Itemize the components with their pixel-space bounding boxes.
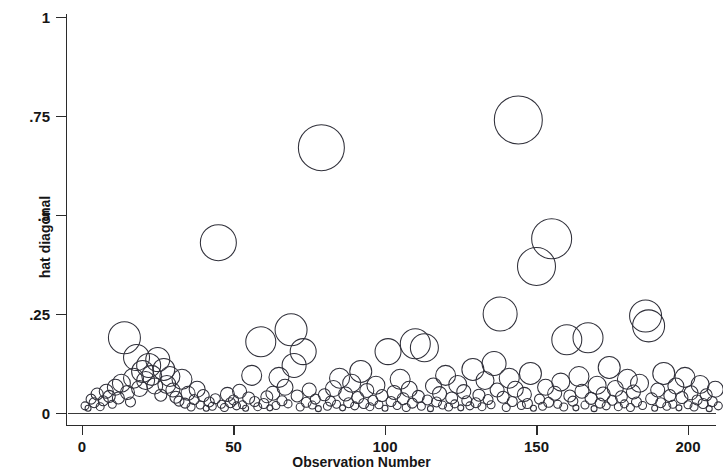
data-point-marker	[633, 310, 665, 342]
axis-ticks-group	[56, 18, 689, 436]
scatter-plot-canvas	[0, 0, 723, 473]
x-tick-label: 100	[372, 438, 397, 455]
data-point-marker	[200, 225, 236, 261]
data-point-marker	[462, 358, 484, 380]
x-tick-label: 0	[78, 438, 86, 455]
data-point-marker	[269, 367, 289, 387]
data-point-marker	[651, 383, 665, 397]
data-point-marker	[607, 380, 623, 396]
data-point-marker	[518, 247, 556, 285]
data-point-marker	[707, 397, 717, 407]
data-point-marker	[142, 365, 162, 385]
data-point-marker	[425, 378, 441, 394]
data-point-marker	[517, 401, 525, 409]
data-point-marker	[519, 362, 541, 384]
data-point-marker	[242, 365, 262, 385]
data-point-marker	[422, 395, 432, 405]
data-point-marker	[707, 381, 723, 397]
data-point-marker	[390, 369, 410, 389]
data-point-marker	[483, 395, 493, 405]
data-point-marker	[382, 405, 388, 411]
data-point-marker	[675, 367, 695, 387]
data-point-marker	[602, 402, 610, 410]
data-point-marker	[691, 375, 709, 393]
data-point-marker	[166, 383, 180, 397]
x-tick-label: 200	[675, 438, 700, 455]
data-point-marker	[233, 384, 247, 398]
data-point-marker	[676, 405, 682, 411]
data-point-marker	[290, 339, 316, 365]
data-point-marker	[210, 394, 220, 404]
data-point-marker	[569, 367, 589, 387]
data-point-marker	[462, 396, 472, 406]
data-point-marker	[573, 323, 603, 353]
data-point-marker	[386, 397, 396, 407]
data-point-marker	[483, 297, 517, 331]
data-point-marker	[400, 329, 430, 359]
bubble-markers-group	[81, 96, 723, 412]
data-point-marker	[494, 96, 542, 144]
data-point-marker	[275, 314, 307, 346]
data-point-marker	[630, 300, 662, 332]
data-point-marker	[626, 403, 634, 411]
data-point-marker	[427, 406, 433, 412]
data-point-marker	[532, 219, 572, 259]
data-point-marker	[282, 353, 306, 377]
data-point-marker	[375, 339, 401, 365]
data-point-marker	[302, 383, 316, 397]
data-point-marker	[407, 398, 417, 408]
data-point-marker	[507, 397, 517, 407]
x-tick-label: 50	[225, 438, 242, 455]
data-point-marker	[330, 368, 350, 388]
data-point-marker	[482, 352, 506, 376]
data-point-marker	[499, 368, 519, 388]
data-point-marker	[298, 125, 344, 171]
data-point-marker	[197, 390, 209, 402]
y-tick-label: 1	[0, 9, 50, 26]
data-point-marker	[352, 392, 364, 404]
data-point-marker	[507, 381, 523, 397]
data-point-marker	[458, 405, 464, 411]
data-point-marker	[530, 405, 536, 411]
data-point-marker	[108, 322, 140, 354]
data-point-marker	[350, 360, 372, 382]
x-tick-label: 150	[524, 438, 549, 455]
data-point-marker	[296, 403, 304, 411]
data-point-marker	[246, 327, 276, 357]
data-point-marker	[552, 325, 582, 355]
data-point-marker	[243, 392, 255, 404]
data-point-marker	[544, 397, 554, 407]
y-tick-label: 0	[0, 405, 50, 422]
data-point-marker	[410, 334, 438, 362]
data-point-marker	[181, 386, 195, 400]
data-point-marker	[653, 362, 675, 384]
y-tick-label: .75	[0, 108, 50, 125]
data-point-marker	[272, 401, 280, 409]
data-point-marker	[617, 369, 637, 389]
data-point-marker	[436, 365, 456, 385]
data-point-marker	[598, 356, 620, 378]
chart-figure: 0.25.5.751 050100150200 hat diagonal Obs…	[0, 0, 723, 473]
y-axis-title: hat diagonal	[37, 195, 53, 277]
data-point-marker	[367, 376, 385, 394]
data-point-marker	[315, 406, 321, 412]
data-point-marker	[573, 405, 579, 411]
y-tick-label: .25	[0, 306, 50, 323]
x-axis-title: Observation Number	[0, 454, 723, 470]
data-point-marker	[581, 401, 589, 409]
data-point-marker	[552, 373, 570, 391]
